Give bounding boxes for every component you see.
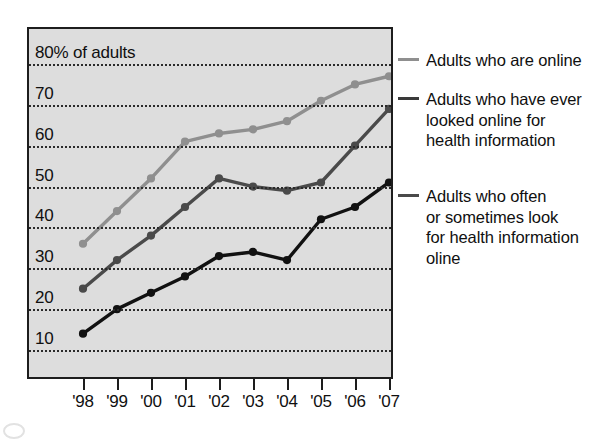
- data-point: [181, 203, 189, 211]
- x-tick-04: [287, 379, 289, 390]
- data-point: [113, 256, 121, 264]
- data-point: [181, 272, 189, 280]
- x-tick-01: [185, 379, 187, 390]
- x-tick-00: [151, 379, 153, 390]
- data-point: [283, 117, 291, 125]
- x-tick-99: [117, 379, 119, 390]
- x-axis-label-05: '05: [310, 392, 332, 412]
- y-tick-label-30: 30: [35, 248, 54, 265]
- data-point: [215, 252, 223, 260]
- data-point: [317, 215, 325, 223]
- y-tick-label-10: 10: [35, 330, 54, 347]
- data-point: [351, 80, 359, 88]
- x-axis-label-98: '98: [72, 392, 94, 412]
- x-axis-label-01: '01: [174, 392, 196, 412]
- x-axis-ticks: [27, 379, 393, 391]
- data-point: [79, 285, 87, 293]
- legend-entry-1[interactable]: Adults who have ever looked online for h…: [398, 89, 582, 151]
- y-tick-label-60: 60: [35, 126, 54, 143]
- x-axis-label-00: '00: [140, 392, 162, 412]
- legend-dash-icon-1: [398, 97, 419, 100]
- data-point: [79, 330, 87, 338]
- data-point: [317, 178, 325, 186]
- gridline-70: [29, 105, 391, 107]
- y-tick-label-70: 70: [35, 85, 54, 102]
- data-point: [249, 125, 257, 133]
- x-tick-05: [321, 379, 323, 390]
- legend-label-1: Adults who have ever looked online for h…: [426, 89, 582, 151]
- x-tick-98: [83, 379, 85, 390]
- x-axis-label-06: '06: [344, 392, 366, 412]
- x-axis-labels: '98'99'00'01'02'03'04'05'06'07: [27, 392, 407, 418]
- legend-dash-icon-0: [398, 58, 419, 61]
- x-axis-label-99: '99: [106, 392, 128, 412]
- data-point: [79, 240, 87, 248]
- x-axis-label-07: '07: [378, 392, 400, 412]
- data-point: [249, 248, 257, 256]
- data-point: [147, 174, 155, 182]
- series-0: [79, 72, 391, 248]
- x-tick-02: [219, 379, 221, 390]
- y-tick-label-50: 50: [35, 167, 54, 184]
- gridline-10: [29, 350, 391, 352]
- data-point: [317, 97, 325, 105]
- x-axis-label-04: '04: [276, 392, 298, 412]
- legend-label-0: Adults who are online: [426, 50, 582, 71]
- data-point: [147, 289, 155, 297]
- gridline-80: [29, 64, 391, 66]
- gridline-20: [29, 309, 391, 311]
- x-tick-06: [355, 379, 357, 390]
- y-tick-label-80: 80% of adults: [35, 44, 135, 61]
- legend-entry-2[interactable]: Adults who often or sometimes look for h…: [398, 186, 579, 268]
- data-point: [147, 232, 155, 240]
- data-point: [351, 203, 359, 211]
- x-axis-label-03: '03: [242, 392, 264, 412]
- legend-label-2: Adults who often or sometimes look for h…: [426, 186, 579, 268]
- data-point: [385, 72, 391, 80]
- chart-legend: Adults who are onlineAdults who have eve…: [398, 27, 613, 379]
- data-point: [283, 256, 291, 264]
- plot-area: 80% of adults70605040302010: [27, 27, 393, 379]
- gridline-60: [29, 146, 391, 148]
- series-lines-group: [29, 29, 391, 377]
- legend-dash-icon-2: [398, 194, 419, 197]
- gridline-40: [29, 227, 391, 229]
- data-point: [113, 207, 121, 215]
- legend-entry-0[interactable]: Adults who are online: [398, 50, 582, 71]
- plot-inner: 80% of adults70605040302010: [29, 29, 391, 377]
- gridline-50: [29, 187, 391, 189]
- y-tick-label-40: 40: [35, 207, 54, 224]
- chart-figure: 80% of adults70605040302010 '98'99'00'01…: [0, 0, 613, 440]
- gridline-30: [29, 268, 391, 270]
- y-tick-label-20: 20: [35, 289, 54, 306]
- x-tick-07: [389, 379, 391, 390]
- data-point: [181, 138, 189, 146]
- x-tick-03: [253, 379, 255, 390]
- data-point: [215, 129, 223, 137]
- data-point: [215, 174, 223, 182]
- x-axis-label-02: '02: [208, 392, 230, 412]
- corner-artifact: [3, 423, 25, 439]
